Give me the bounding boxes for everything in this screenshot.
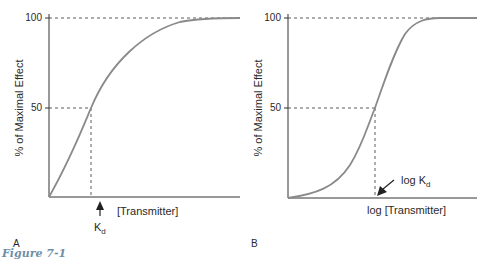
ytick-100: 100 [25,12,42,23]
ytick-50: 50 [270,102,282,113]
x-axis-label: log [Transmitter] [367,204,446,216]
curve-hyperbolic [49,18,240,197]
panel-letter-b: B [251,238,258,249]
y-axis-label: % of Maximal Effect [252,60,264,157]
logkd-label: log Kd [401,174,431,189]
panel-a: 100 50 % of Maximal Effect [Transmitter]… [13,12,240,249]
ytick-100: 100 [264,12,281,23]
kd-label: Kd [94,221,106,236]
panel-b: 100 50 % of Maximal Effect log Kd log [T… [251,12,477,249]
y-axis-label: % of Maximal Effect [13,60,25,157]
ytick-50: 50 [31,102,43,113]
x-axis-label: [Transmitter] [117,205,178,217]
figure-canvas: 100 50 % of Maximal Effect [Transmitter]… [0,0,485,262]
figure-caption: Figure 7-1 [2,247,66,260]
curve-sigmoid [288,18,477,198]
